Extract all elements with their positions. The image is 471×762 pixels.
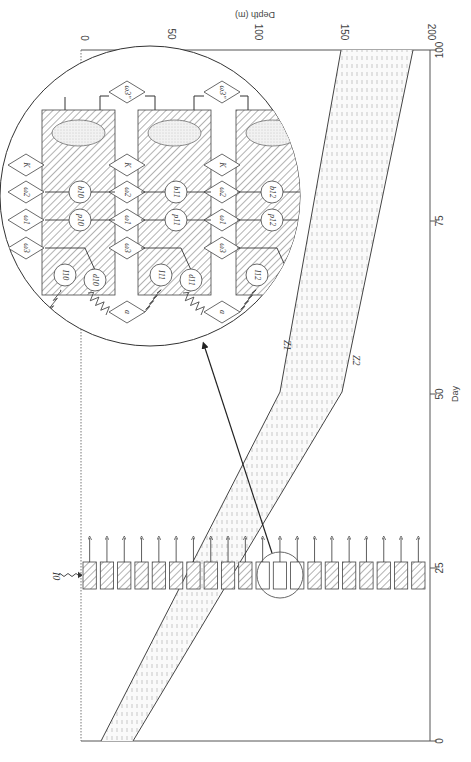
svg-text:ω3: ω3 — [123, 243, 132, 253]
layer-box — [308, 562, 321, 589]
svg-text:ω3'': ω3'' — [123, 85, 132, 98]
svg-text:I11: I11 — [157, 269, 166, 280]
layer-box — [204, 562, 217, 589]
depth-tick-200: 200 — [426, 24, 437, 41]
depth-tick-0: 0 — [79, 35, 90, 41]
day-tick-25: 25 — [434, 562, 445, 574]
svg-text:ω2: ω2 — [123, 187, 132, 197]
depth-tick-50: 50 — [166, 28, 177, 40]
layer-box — [239, 562, 252, 589]
svg-text:ω3'': ω3'' — [218, 85, 227, 98]
layer-box — [325, 562, 338, 589]
day-tick-75: 75 — [434, 215, 445, 227]
svg-text:d11: d11 — [187, 274, 196, 285]
layer-box — [221, 562, 234, 589]
day-tick-50: 50 — [434, 388, 445, 400]
layer-box — [412, 562, 425, 589]
svg-text:K: K — [123, 161, 132, 168]
svg-text:ω2: ω2 — [22, 187, 31, 197]
layer-box — [187, 562, 200, 589]
depth-axis-title: Depth (m) — [235, 10, 275, 20]
layer-box — [343, 562, 356, 589]
layer-box — [273, 562, 286, 589]
layer-box — [118, 562, 131, 589]
svg-text:b12: b12 — [268, 186, 277, 198]
i0-label: I0 — [51, 571, 62, 580]
layer-box — [83, 562, 96, 589]
svg-text:d12: d12 — [283, 274, 292, 286]
layer-box — [100, 562, 113, 589]
layer-box — [360, 562, 373, 589]
depth-day-diagram: 0 50 100 150 200 Depth (m) 0 25 50 75 10… — [0, 0, 471, 762]
svg-text:ω2: ω2 — [218, 187, 227, 197]
svg-text:I10: I10 — [61, 269, 70, 281]
inset-circle: ω3''ω3''Kω2ω1ω3Kω2ω1ω3Kω2ω1ω3b10p10I10d1… — [0, 46, 309, 346]
depth-tick-100: 100 — [253, 24, 264, 41]
day-axis: 0 25 50 75 100 Day — [430, 41, 460, 744]
layer-stack — [83, 538, 425, 598]
svg-text:ω1: ω1 — [218, 215, 227, 225]
svg-text:ω1: ω1 — [123, 215, 132, 225]
svg-text:p12: p12 — [268, 213, 277, 226]
layer-box — [152, 562, 165, 589]
svg-text:ω3: ω3 — [218, 243, 227, 253]
detritus-blob — [246, 120, 299, 146]
depth-tick-150: 150 — [339, 24, 350, 41]
layer-box — [291, 562, 304, 589]
svg-text:ω3: ω3 — [22, 243, 31, 253]
svg-text:a: a — [123, 310, 132, 314]
depth-axis: 0 50 100 150 200 Depth (m) — [79, 10, 437, 41]
layer-box — [135, 562, 148, 589]
svg-text:p11: p11 — [172, 213, 181, 225]
layer-box — [170, 562, 183, 589]
svg-text:b11: b11 — [172, 186, 181, 197]
svg-text:d10: d10 — [91, 274, 100, 286]
svg-text:a: a — [218, 310, 227, 314]
z2-label: Z2 — [351, 355, 362, 366]
day-tick-0: 0 — [434, 738, 445, 744]
svg-text:p10: p10 — [76, 213, 85, 226]
layer-box — [377, 562, 390, 589]
detritus-blob — [52, 120, 105, 146]
day-tick-100: 100 — [434, 41, 445, 58]
z1-label: Z1 — [282, 340, 293, 351]
svg-text:I12: I12 — [253, 269, 262, 281]
layer-box — [256, 562, 269, 589]
day-axis-title: Day — [450, 386, 460, 403]
svg-text:ω1: ω1 — [22, 215, 31, 225]
svg-text:K: K — [22, 161, 31, 168]
svg-text:K: K — [218, 161, 227, 168]
detritus-blob — [148, 120, 201, 146]
layer-box — [394, 562, 407, 589]
light-input: I0 — [51, 571, 82, 580]
svg-text:b10: b10 — [76, 186, 85, 198]
